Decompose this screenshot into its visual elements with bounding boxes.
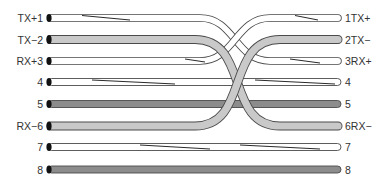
left-label-8: 8: [37, 164, 43, 176]
left-label-6: RX−6: [16, 120, 43, 132]
right-label-3: 3RX+: [345, 55, 372, 67]
right-label-4: 4: [345, 76, 351, 88]
right-label-5: 5: [345, 98, 351, 110]
left-label-5: 5: [37, 98, 43, 110]
wire-8: [48, 166, 341, 173]
left-pin-labels: TX+1 TX−2 RX+3 4 5 RX−6 7 8: [16, 12, 43, 176]
wire-7: [48, 144, 341, 151]
right-label-8: 8: [345, 164, 351, 176]
left-connector-caps: [46, 14, 51, 174]
right-label-7: 7: [345, 141, 351, 153]
left-label-2: TX−2: [18, 34, 44, 46]
crossover-wiring-diagram: TX+1 TX−2 RX+3 4 5 RX−6 7 8 1TX+ 2TX− 3R…: [0, 0, 383, 189]
left-label-4: 4: [37, 76, 43, 88]
left-label-3: RX+3: [16, 55, 43, 67]
right-pin-labels: 1TX+ 2TX− 3RX+ 4 5 6RX− 7 8: [345, 12, 372, 176]
right-label-2: 2TX−: [345, 34, 370, 46]
left-label-1: TX+1: [18, 12, 44, 24]
wire-5: [48, 101, 341, 108]
left-label-7: 7: [37, 141, 43, 153]
right-label-6: 6RX−: [345, 120, 372, 132]
right-label-1: 1TX+: [345, 12, 370, 24]
wire-4: [48, 79, 341, 86]
